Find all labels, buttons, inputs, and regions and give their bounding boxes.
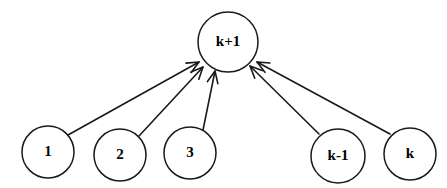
node-label: 1 [44, 143, 52, 159]
node-label: 3 [186, 144, 194, 160]
edge-line [68, 62, 199, 135]
edge-line [257, 62, 390, 134]
node-label: k [406, 145, 415, 161]
node-2[interactable]: 2 [94, 129, 146, 181]
node-k[interactable]: k [384, 128, 436, 180]
edges-layer [68, 62, 390, 136]
edge-k-to-k+1 [257, 62, 390, 134]
node-label: k-1 [328, 147, 349, 163]
node-k+1[interactable]: k+1 [198, 12, 258, 72]
edge-3-to-k+1 [203, 71, 218, 130]
graph-svg: k+1123k-1k [0, 0, 447, 188]
node-label: k+1 [216, 33, 240, 49]
node-1[interactable]: 1 [22, 126, 74, 178]
node-k-1[interactable]: k-1 [311, 129, 365, 183]
diagram-canvas: k+1123k-1k [0, 0, 447, 188]
edge-1-to-k+1 [68, 62, 199, 135]
nodes-layer: k+1123k-1k [22, 12, 436, 183]
node-3[interactable]: 3 [164, 127, 216, 179]
node-label: 2 [116, 146, 124, 162]
